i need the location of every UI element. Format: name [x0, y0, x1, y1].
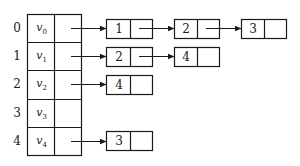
row-index-3: 3 [10, 99, 24, 127]
row-index-1: 1 [10, 42, 24, 70]
list-node-0-1: 2 [174, 19, 198, 39]
list-node-0-2: 3 [241, 19, 265, 39]
row-index-4: 4 [10, 127, 24, 155]
list-node-1-0: 2 [107, 47, 131, 67]
list-node-0-0: 1 [107, 19, 131, 39]
list-node-2-0: 4 [107, 75, 131, 95]
list-node-1-1: 4 [174, 47, 198, 67]
vertex-cell-2: v2 [28, 70, 55, 102]
row-index-2: 2 [10, 70, 24, 98]
list-node-4-0: 3 [107, 131, 131, 151]
row-index-0: 0 [10, 14, 24, 42]
vertex-cell-4: v4 [28, 127, 55, 159]
